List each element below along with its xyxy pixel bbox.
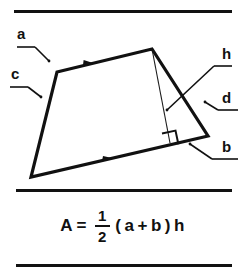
leader-line-d bbox=[204, 101, 238, 110]
label-a: a bbox=[17, 25, 26, 42]
formula-plus: + bbox=[137, 216, 147, 236]
area-formula: A = 1 2 ( a + b ) h bbox=[0, 198, 245, 254]
formula-term-a: a bbox=[125, 216, 135, 236]
horizontal-rule-middle bbox=[16, 189, 232, 192]
label-b: b bbox=[222, 138, 231, 155]
formula-equals: = bbox=[76, 216, 86, 236]
trapezoid-outline bbox=[31, 49, 208, 177]
trapezoid-diagram: a c h d b bbox=[0, 14, 245, 190]
formula-lhs: A bbox=[60, 216, 73, 236]
leader-line-a bbox=[17, 47, 50, 62]
fraction-denominator: 2 bbox=[96, 228, 109, 245]
formula-fraction: 1 2 bbox=[95, 207, 110, 245]
formula-close-paren: ) bbox=[165, 216, 171, 236]
fraction-numerator: 1 bbox=[96, 207, 109, 224]
label-h: h bbox=[222, 45, 231, 62]
figure-root: a c h d b A = 1 2 ( a + b ) h bbox=[0, 0, 245, 276]
fraction-bar bbox=[95, 225, 110, 227]
formula-term-h: h bbox=[174, 216, 185, 236]
horizontal-rule-bottom bbox=[16, 264, 232, 267]
formula-term-b: b bbox=[151, 216, 162, 236]
formula-open-paren: ( bbox=[115, 216, 121, 236]
top-caption bbox=[0, 0, 245, 9]
leader-line-c bbox=[10, 87, 42, 98]
horizontal-rule-top bbox=[14, 10, 232, 13]
label-d: d bbox=[222, 89, 231, 106]
label-c: c bbox=[11, 65, 19, 82]
